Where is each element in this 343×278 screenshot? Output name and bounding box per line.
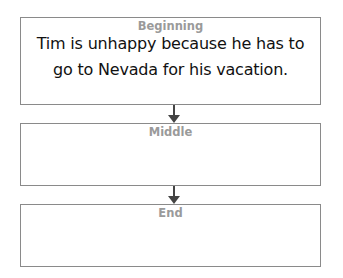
beginning-text: Tim is unhappy because he has to go to N… <box>21 31 320 83</box>
arrow-down-icon <box>168 186 180 204</box>
middle-title: Middle <box>21 125 320 139</box>
end-title: End <box>21 206 320 220</box>
beginning-box: Beginning Tim is unhappy because he has … <box>20 17 321 105</box>
middle-box: Middle <box>20 123 321 186</box>
arrow-down-icon <box>168 105 180 123</box>
end-box: End <box>20 204 321 267</box>
